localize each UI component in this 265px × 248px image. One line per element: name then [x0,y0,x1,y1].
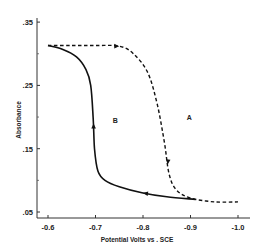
x-tick-label: -1.0 [232,223,245,232]
labels: -0.6-0.7-0.8-0.9-1.0.05.15.25.35Potentia… [15,18,244,243]
chart: -0.6-0.7-0.8-0.9-1.0.05.15.25.35Potentia… [0,0,265,248]
curves [48,44,238,202]
curve-label-b: B [113,117,118,124]
y-tick-label: .35 [23,18,33,27]
curve-label-a: A [187,114,192,121]
series-a-curve [48,45,238,202]
arrow-up-icon [91,123,96,128]
x-axis-title: Potential Volts vs . SCE [101,236,174,243]
x-tick-label: -0.7 [89,223,102,232]
arrow-right-icon [114,44,119,49]
series-b-curve [48,46,195,200]
y-tick-label: .25 [23,81,33,90]
axes [37,18,250,218]
y-axis-title: Absorbance [15,101,22,139]
arrow-down-icon [165,159,170,164]
y-tick-label: .05 [23,208,33,217]
x-tick-label: -0.9 [184,223,197,232]
x-tick-label: -0.6 [42,223,55,232]
y-tick-label: .15 [23,145,33,154]
x-tick-label: -0.8 [137,223,150,232]
